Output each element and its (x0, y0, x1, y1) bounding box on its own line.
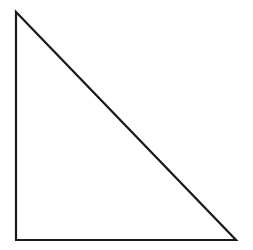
right-triangle-shape (16, 12, 236, 240)
triangle-drawing (0, 0, 253, 250)
figure-canvas (0, 0, 253, 250)
